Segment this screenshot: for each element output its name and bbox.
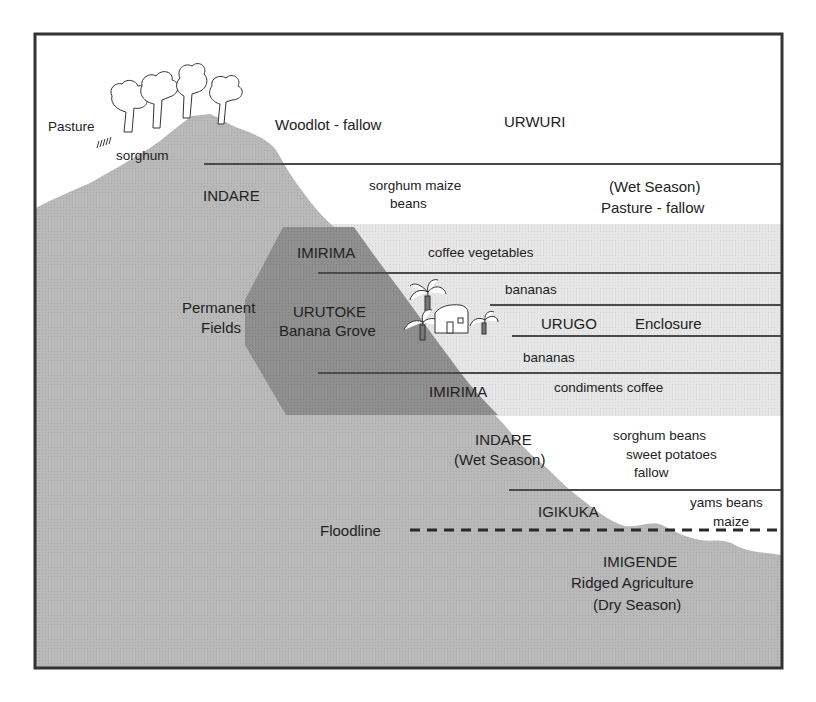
label-imirima-top: IMIRIMA — [297, 244, 355, 261]
label-sorghum-maize: sorghum maize — [369, 178, 461, 193]
label-fields: Fields — [201, 319, 241, 336]
label-pasture: Pasture — [48, 119, 95, 134]
label-condiments-coffee: condiments coffee — [554, 380, 663, 395]
label-sorghum-beans: sorghum beans — [613, 428, 706, 443]
label-wet-season-top: (Wet Season) — [609, 178, 700, 195]
house-icon — [435, 305, 468, 333]
label-wet-season-bottom: (Wet Season) — [454, 451, 545, 468]
land-use-diagram: Pasture sorghum Woodlot - fallow URWURI … — [0, 0, 816, 702]
label-floodline: Floodline — [320, 522, 381, 539]
label-sorghum-top: sorghum — [116, 148, 169, 163]
label-maize: maize — [713, 514, 749, 529]
label-sweet-potatoes: sweet potatoes — [626, 447, 717, 462]
label-ridged-agriculture: Ridged Agriculture — [571, 574, 694, 591]
tree-icon — [111, 64, 242, 132]
grass-icon — [97, 137, 111, 148]
label-dry-season: (Dry Season) — [593, 596, 681, 613]
label-bananas-upper: bananas — [505, 282, 557, 297]
label-imigende: IMIGENDE — [603, 553, 677, 570]
label-beans-top: beans — [390, 196, 427, 211]
label-yams-beans: yams beans — [690, 495, 763, 510]
label-imirima-bottom: IMIRIMA — [429, 383, 487, 400]
label-urutoke: URUTOKE — [293, 303, 366, 320]
label-urugo: URUGO — [541, 315, 597, 332]
label-pasture-fallow: Pasture - fallow — [601, 199, 705, 216]
label-permanent: Permanent — [182, 299, 256, 316]
label-fallow: fallow — [634, 465, 669, 480]
label-enclosure: Enclosure — [635, 315, 702, 332]
label-bananas-lower: bananas — [523, 350, 575, 365]
label-igikuka: IGIKUKA — [538, 503, 599, 520]
label-woodlot: Woodlot - fallow — [275, 116, 382, 133]
label-indare-top: INDARE — [203, 187, 260, 204]
label-urwuri: URWURI — [504, 113, 565, 130]
label-coffee-vegetables: coffee vegetables — [428, 245, 534, 260]
label-indare-bottom: INDARE — [475, 431, 532, 448]
label-banana-grove: Banana Grove — [279, 322, 376, 339]
